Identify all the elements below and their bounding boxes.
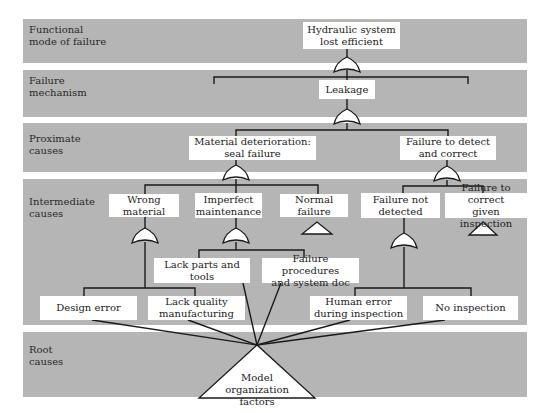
band-label: Root causes bbox=[29, 344, 63, 368]
node-text: No inspection bbox=[435, 302, 505, 314]
node-text: Leakage bbox=[326, 84, 369, 96]
node-text: Lack parts and tools bbox=[156, 259, 248, 283]
node-text: detected bbox=[378, 206, 422, 218]
node-lack-parts: Lack parts and tools bbox=[154, 258, 250, 283]
band-functional-mode: Functional mode of failure bbox=[23, 19, 527, 63]
band-label-line: Functional bbox=[29, 24, 106, 36]
band-label-line: causes bbox=[29, 208, 95, 220]
node-text: maintenance bbox=[196, 206, 261, 218]
node-text: organization factors bbox=[207, 384, 307, 408]
node-text: lost efficient bbox=[320, 36, 383, 48]
node-text: Failure to correct bbox=[447, 182, 525, 206]
node-failure-to-detect: Failure to detect and correct bbox=[400, 136, 496, 160]
node-wrong-material: Wrong material bbox=[109, 194, 179, 217]
node-root-label: Model organization factors bbox=[207, 372, 307, 408]
band-failure-mechanism: Failure mechanism bbox=[23, 70, 527, 117]
band-label: Proximate causes bbox=[29, 133, 81, 157]
node-text: Design error bbox=[56, 302, 121, 314]
node-text: Hydraulic system bbox=[307, 24, 395, 36]
node-normal-failure: Normal failure bbox=[280, 194, 348, 217]
band-label-line: causes bbox=[29, 145, 81, 157]
band-label-line: Proximate bbox=[29, 133, 81, 145]
node-text: Model bbox=[207, 372, 307, 384]
band-label-line: Intermediate bbox=[29, 196, 95, 208]
band-label-line: Failure bbox=[29, 75, 87, 87]
node-lack-quality: Lack quality manufacturing bbox=[148, 296, 245, 320]
node-text: Failure not bbox=[373, 194, 428, 206]
node-failure-procedures: Failure procedures and system doc bbox=[262, 258, 359, 283]
node-no-inspection: No inspection bbox=[423, 296, 518, 320]
band-label: Functional mode of failure bbox=[29, 24, 106, 48]
node-text: Wrong material bbox=[111, 194, 177, 218]
node-text: Normal failure bbox=[282, 194, 346, 218]
node-imperfect-maintenance: Imperfect maintenance bbox=[195, 193, 262, 218]
node-material-deterioration: Material deterioration: seal failure bbox=[189, 136, 316, 160]
node-leakage: Leakage bbox=[319, 80, 375, 99]
band-label-line: causes bbox=[29, 356, 63, 368]
node-failure-to-correct: Failure to correct given inspection bbox=[445, 193, 527, 218]
node-text: seal failure bbox=[224, 148, 281, 160]
node-text: Material deterioration: bbox=[194, 136, 311, 148]
node-text: and correct bbox=[419, 148, 478, 160]
band-label-line: mode of failure bbox=[29, 36, 106, 48]
node-text: and system doc bbox=[271, 277, 350, 289]
node-human-error: Human error during inspection bbox=[310, 296, 407, 320]
band-label: Failure mechanism bbox=[29, 75, 87, 99]
node-text: given inspection bbox=[447, 206, 525, 230]
node-top-event: Hydraulic system lost efficient bbox=[303, 22, 400, 49]
node-failure-not-detected: Failure not detected bbox=[361, 193, 440, 218]
node-text: Imperfect bbox=[204, 194, 254, 206]
band-label-line: mechanism bbox=[29, 87, 87, 99]
node-text: Lack quality bbox=[165, 296, 227, 308]
node-text: Failure procedures bbox=[264, 253, 357, 277]
band-label: Intermediate causes bbox=[29, 196, 95, 220]
band-label-line: Root bbox=[29, 344, 63, 356]
node-text: during inspection bbox=[314, 308, 403, 320]
node-text: Failure to detect bbox=[406, 136, 490, 148]
node-text: manufacturing bbox=[159, 308, 234, 320]
node-design-error: Design error bbox=[40, 296, 137, 320]
node-text: Human error bbox=[325, 296, 392, 308]
